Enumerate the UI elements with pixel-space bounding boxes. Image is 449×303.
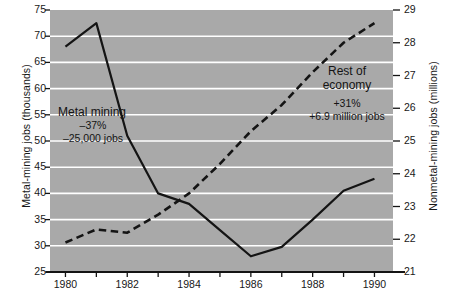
x-axis-tick-1988: 1988 bbox=[293, 278, 333, 290]
annotation-rest-of-economy-header-line2: economy bbox=[282, 78, 412, 92]
annotation-rest-of-economy: Rest of economy +31% +6.9 million jobs bbox=[282, 64, 412, 122]
x-axis-tick-1982: 1982 bbox=[107, 278, 147, 290]
x-axis-tick-1990: 1990 bbox=[354, 278, 394, 290]
annotation-metal-mining-pct: –37% bbox=[58, 119, 126, 131]
plot-area: Metal mining –37% –25,000 jobs Rest of e… bbox=[50, 10, 393, 272]
x-axis-tick-1986: 1986 bbox=[231, 278, 271, 290]
x-axis-tick-1984: 1984 bbox=[169, 278, 209, 290]
annotation-rest-of-economy-jobs: +6.9 million jobs bbox=[282, 110, 412, 122]
annotation-metal-mining-header: Metal mining bbox=[58, 105, 126, 119]
annotation-rest-of-economy-header-line1: Rest of bbox=[282, 64, 412, 78]
annotation-rest-of-economy-pct: +31% bbox=[282, 97, 412, 109]
x-axis-tick-1980: 1980 bbox=[45, 278, 85, 290]
annotation-metal-mining-jobs: –25,000 jobs bbox=[58, 132, 126, 144]
annotation-metal-mining: Metal mining –37% –25,000 jobs bbox=[58, 105, 126, 144]
chart-figure: Metal-mining jobs (thousands) Nonmetal-m… bbox=[0, 0, 449, 303]
